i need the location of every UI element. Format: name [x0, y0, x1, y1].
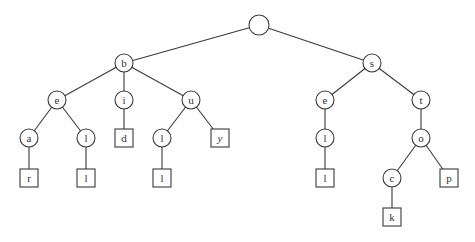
- leaf-node-stock: k: [383, 208, 401, 226]
- leaf-node-bid: d: [115, 129, 133, 147]
- node-s: s: [363, 54, 381, 72]
- edge-b-bu: [124, 63, 191, 100]
- node-label: l: [160, 172, 163, 184]
- node-label: r: [27, 172, 31, 184]
- node-bi: i: [115, 91, 133, 109]
- node-label: l: [323, 172, 326, 184]
- node-label: l: [160, 132, 163, 144]
- node-label: b: [121, 57, 127, 69]
- node-be: e: [48, 91, 66, 109]
- node-label: k: [389, 211, 395, 223]
- node-label: l: [84, 132, 87, 144]
- node-label: i: [122, 94, 125, 106]
- node-bea: a: [20, 129, 38, 147]
- leaf-node-bell: l: [77, 169, 95, 187]
- node-bu: u: [182, 91, 200, 109]
- node-label: u: [188, 94, 194, 106]
- node-label: c: [390, 172, 395, 184]
- node-b: b: [115, 54, 133, 72]
- node-bul: l: [153, 129, 171, 147]
- trie-diagram: bseiualdlyrlletllocpk: [0, 0, 475, 242]
- circle-node-shape: [249, 15, 269, 35]
- node-label: e: [323, 94, 328, 106]
- node-label: t: [419, 94, 422, 106]
- node-sto: o: [412, 129, 430, 147]
- node-label: d: [121, 132, 127, 144]
- node-label: y: [217, 132, 223, 144]
- node-st: t: [412, 91, 430, 109]
- leaf-node-stop: p: [440, 169, 458, 187]
- node-sel: l: [316, 129, 334, 147]
- node-se: e: [316, 91, 334, 109]
- edge-root-b: [124, 25, 259, 63]
- node-label: e: [55, 94, 60, 106]
- node-label: s: [370, 57, 374, 69]
- node-bel: l: [77, 129, 95, 147]
- node-label: p: [446, 172, 452, 184]
- node-stoc: c: [383, 169, 401, 187]
- node-label: l: [84, 172, 87, 184]
- node-label: o: [418, 132, 424, 144]
- edge-root-s: [259, 25, 372, 63]
- tree-edges: [29, 25, 449, 217]
- edge-b-be: [57, 63, 124, 100]
- node-root: [249, 15, 269, 35]
- leaf-node-buy: y: [211, 129, 229, 147]
- leaf-node-bull: l: [153, 169, 171, 187]
- leaf-node-sell: l: [316, 169, 334, 187]
- node-label: a: [27, 132, 32, 144]
- leaf-node-bear: r: [20, 169, 38, 187]
- node-label: l: [323, 132, 326, 144]
